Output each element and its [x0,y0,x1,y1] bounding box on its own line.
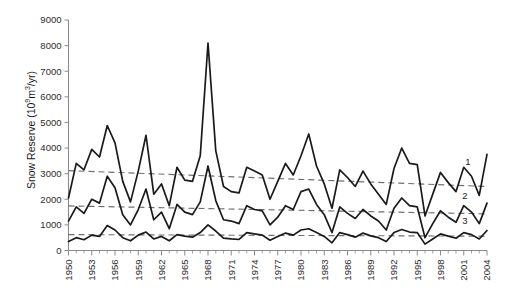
y-tick-label: 0 [56,245,61,256]
x-tick-label: 1980 [295,260,306,281]
x-tick-label: 1971 [226,260,237,281]
x-tick-label: 1986 [342,260,353,281]
y-tick-label: 5000 [40,117,61,128]
x-axis-ticks [69,251,488,256]
series-label-2: 2 [462,190,467,201]
x-tick-label: 1953 [86,260,97,281]
y-tick-label: 3000 [40,168,61,179]
x-tick-label: 1989 [365,260,376,281]
series-label-3: 3 [462,215,467,226]
y-tick-label: 2000 [40,194,61,205]
x-tick-label: 1962 [156,260,167,281]
series-label-1: 1 [465,156,470,167]
x-tick-label: 1995 [412,260,423,281]
x-tick-label: 2004 [481,260,492,281]
x-tick-label: 2001 [458,260,469,281]
series-inline-labels: 123 [462,156,470,227]
y-tick-label: 9000 [40,14,61,25]
plot-canvas: 0100020003000400050006000700080009000 19… [0,0,507,298]
x-tick-label: 1974 [249,260,260,281]
series-line-1 [69,43,488,216]
y-tick-label: 7000 [40,66,61,77]
data-series [69,43,488,244]
y-tick-label: 1000 [40,219,61,230]
x-tick-label: 1983 [319,260,330,281]
y-tick-label: 4000 [40,142,61,153]
x-tick-label: 1965 [179,260,190,281]
y-axis-ticks [65,20,69,251]
y-axis-tick-labels: 0100020003000400050006000700080009000 [40,14,61,256]
x-axis-tick-labels: 1950195319561959196219651968197119741977… [63,260,493,281]
x-tick-label: 1968 [202,260,213,281]
trend-1 [69,171,488,187]
x-tick-label: 1998 [435,260,446,281]
x-tick-label: 1959 [133,260,144,281]
snow-reserve-chart: Snow Reserve (109m3/yr) 0100020003000400… [0,0,507,298]
y-tick-label: 8000 [40,40,61,51]
y-tick-label: 6000 [40,91,61,102]
x-tick-label: 1950 [63,260,74,281]
x-tick-label: 1956 [109,260,120,281]
x-tick-label: 1977 [272,260,283,281]
x-tick-label: 1992 [388,260,399,281]
